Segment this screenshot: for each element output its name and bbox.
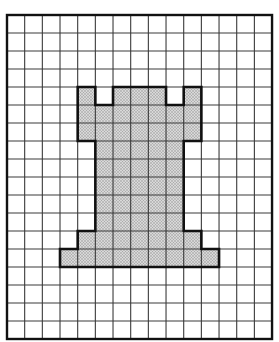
rook-grid-diagram [0,0,279,342]
grid-lines [7,15,272,339]
